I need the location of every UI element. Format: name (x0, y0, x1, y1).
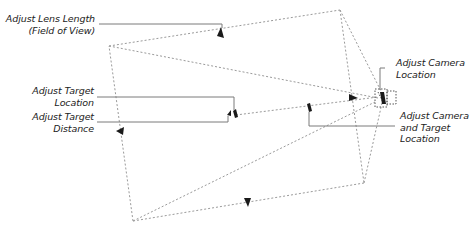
label-adjust-target-location: Adjust Target Location (2, 85, 94, 108)
target-location-handle[interactable] (233, 109, 238, 118)
label-adjust-target-distance: Adjust Target Distance (2, 111, 94, 134)
label-line: Adjust Lens Length (2, 13, 95, 25)
frustum-lines (109, 10, 382, 221)
label-adjust-lens-length: Adjust Lens Length (Field of View) (2, 13, 95, 36)
label-line: Adjust Camera (400, 110, 469, 122)
label-adjust-camera-location: Adjust Camera Location (396, 57, 465, 80)
lens-length-handle[interactable] (217, 27, 224, 38)
label-line: Distance (2, 123, 94, 135)
label-line: and Target (400, 122, 469, 134)
label-line: Location (396, 69, 465, 81)
label-line: Adjust Target (2, 111, 94, 123)
camera-target-handle[interactable] (307, 103, 312, 112)
label-line: Adjust Camera (396, 57, 465, 69)
camera-icon[interactable] (375, 89, 396, 107)
target-distance-handle[interactable] (227, 110, 231, 116)
label-line: (Field of View) (2, 25, 95, 37)
label-line: Location (400, 133, 469, 145)
label-line: Location (2, 97, 94, 109)
leader-lines (97, 24, 395, 126)
label-line: Adjust Target (2, 85, 94, 97)
label-adjust-camera-and-target-location: Adjust Camera and Target Location (400, 110, 469, 145)
